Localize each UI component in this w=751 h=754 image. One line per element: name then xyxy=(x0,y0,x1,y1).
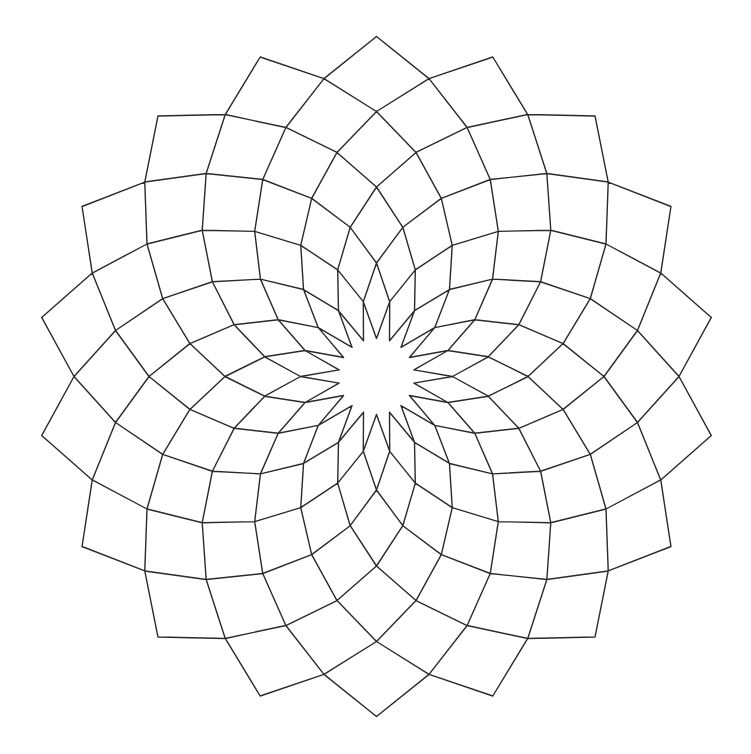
rosette-svg xyxy=(0,0,751,754)
rosette-artwork xyxy=(0,0,751,754)
rhombus-grid-lines xyxy=(42,37,712,717)
rosette-lines xyxy=(42,37,712,717)
